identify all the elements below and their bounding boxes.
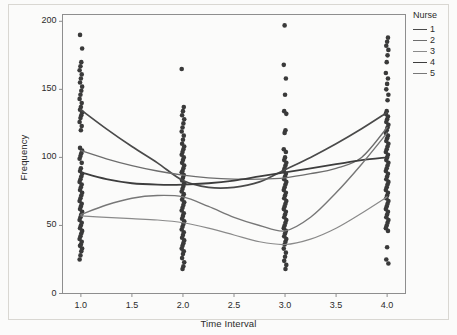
legend-entry-label: 4 bbox=[430, 57, 435, 68]
scatter-point bbox=[386, 48, 391, 53]
legend-entry-5[interactable]: 5 bbox=[413, 68, 457, 79]
scatter-point bbox=[282, 23, 287, 28]
scatter-point bbox=[281, 246, 286, 251]
x-axis-title: Time Interval bbox=[0, 318, 457, 329]
scatter-point bbox=[283, 267, 288, 272]
scatter-point bbox=[181, 121, 186, 126]
scatter-point bbox=[283, 128, 288, 133]
scatter-point bbox=[181, 264, 186, 269]
x-tick-label: 2.0 bbox=[163, 300, 203, 310]
scatter-point bbox=[79, 128, 84, 133]
chart-legend: Nurse 12345 bbox=[413, 10, 457, 79]
x-tick-label: 1.5 bbox=[112, 300, 152, 310]
legend-entry-label: 2 bbox=[430, 35, 435, 46]
scatter-point bbox=[384, 71, 389, 76]
scatter-point bbox=[385, 245, 390, 250]
y-tick-label: 150 bbox=[23, 83, 57, 93]
scatter-point bbox=[283, 92, 288, 97]
scatter-point bbox=[181, 109, 186, 114]
y-tick-label: 200 bbox=[23, 15, 57, 25]
legend-entry-3[interactable]: 3 bbox=[413, 46, 457, 57]
scatter-point bbox=[386, 92, 391, 97]
scatter-point bbox=[78, 33, 83, 38]
scatter-point bbox=[281, 63, 286, 68]
scatter-point bbox=[181, 105, 186, 110]
legend-title: Nurse bbox=[413, 10, 457, 20]
scatter-plot-canvas bbox=[0, 0, 457, 335]
legend-entry-list: 12345 bbox=[413, 24, 457, 79]
scatter-point bbox=[283, 155, 288, 160]
chart-figure: Time Interval Frequency 0501001502001.01… bbox=[0, 0, 457, 335]
scatter-point bbox=[78, 64, 83, 69]
scatter-point bbox=[79, 60, 84, 65]
legend-entry-label: 3 bbox=[430, 46, 435, 57]
scatter-point bbox=[180, 256, 185, 261]
scatter-point bbox=[384, 87, 389, 92]
x-tick-label: 1.0 bbox=[61, 300, 101, 310]
y-tick-label: 50 bbox=[23, 219, 57, 229]
x-tick-label: 3.0 bbox=[265, 300, 305, 310]
scatter-point bbox=[182, 117, 187, 122]
x-tick-label: 4.0 bbox=[367, 300, 407, 310]
scatter-point bbox=[79, 72, 84, 77]
scatter-point bbox=[79, 101, 84, 106]
scatter-point bbox=[385, 39, 390, 44]
y-tick-label: 100 bbox=[23, 151, 57, 161]
scatter-point bbox=[80, 46, 85, 51]
scatter-point bbox=[79, 161, 84, 166]
y-tick-label: 0 bbox=[23, 288, 57, 298]
scatter-point bbox=[179, 67, 184, 72]
scatter-point bbox=[182, 260, 187, 265]
scatter-point bbox=[282, 109, 287, 114]
scatter-point bbox=[181, 133, 186, 138]
scatter-point bbox=[284, 263, 289, 268]
scatter-point bbox=[79, 105, 84, 110]
scatter-point bbox=[79, 88, 84, 93]
scatter-point bbox=[384, 44, 389, 49]
scatter-point bbox=[386, 35, 391, 40]
scatter-point bbox=[79, 124, 84, 129]
scatter-point bbox=[385, 98, 390, 103]
x-tick-label: 3.5 bbox=[316, 300, 356, 310]
scatter-point bbox=[77, 257, 82, 262]
scatter-point bbox=[79, 76, 84, 81]
scatter-point bbox=[281, 147, 286, 152]
legend-entry-label: 5 bbox=[430, 68, 435, 79]
scatter-point bbox=[77, 68, 82, 73]
scatter-point bbox=[284, 76, 289, 81]
legend-entry-4[interactable]: 4 bbox=[413, 57, 457, 68]
scatter-point bbox=[78, 80, 83, 85]
scatter-point bbox=[78, 253, 83, 258]
scatter-point bbox=[79, 166, 84, 171]
legend-line-swatch bbox=[413, 62, 427, 63]
scatter-point bbox=[179, 129, 184, 134]
scatter-point bbox=[180, 125, 185, 130]
scatter-point bbox=[386, 76, 391, 81]
scatter-point bbox=[384, 257, 389, 262]
legend-entry-1[interactable]: 1 bbox=[413, 24, 457, 35]
scatter-point bbox=[181, 137, 186, 142]
scatter-point bbox=[386, 261, 391, 266]
scatter-point bbox=[284, 250, 289, 255]
scatter-point bbox=[80, 84, 85, 89]
scatter-point bbox=[385, 53, 390, 58]
x-tick-label: 2.5 bbox=[214, 300, 254, 310]
legend-line-swatch bbox=[413, 73, 427, 74]
legend-line-swatch bbox=[413, 40, 427, 41]
scatter-point bbox=[180, 141, 185, 146]
scatter-point bbox=[78, 146, 83, 151]
legend-entry-2[interactable]: 2 bbox=[413, 35, 457, 46]
scatter-point bbox=[180, 113, 185, 118]
scatter-point bbox=[78, 92, 83, 97]
scatter-point bbox=[77, 97, 82, 102]
scatter-point bbox=[385, 82, 390, 87]
legend-entry-label: 1 bbox=[430, 24, 435, 35]
scatter-point bbox=[282, 259, 287, 264]
plot-area-frame bbox=[63, 15, 406, 294]
scatter-point bbox=[384, 60, 389, 65]
scatter-point bbox=[283, 254, 288, 259]
legend-line-swatch bbox=[413, 51, 427, 52]
scatter-point bbox=[77, 120, 82, 125]
legend-line-swatch bbox=[413, 29, 427, 30]
